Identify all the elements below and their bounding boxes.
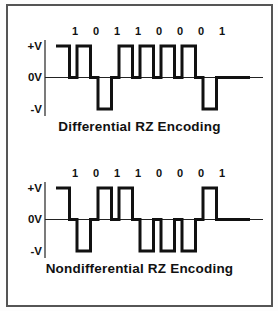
minus-v-label: -V [16,244,42,258]
page: 10110001 +V 0V -V Differential RZ Encodi… [0,0,278,311]
panel-title: Differential RZ Encoding [8,119,271,134]
panel-nondifferential-rz: 10110001 +V 0V -V Nondifferential RZ Enc… [8,148,271,288]
zero-v-label: 0V [16,70,42,84]
plus-v-label: +V [16,39,42,53]
plus-v-label: +V [16,181,42,195]
panel-title: Nondifferential RZ Encoding [8,261,271,276]
panel-differential-rz: 10110001 +V 0V -V Differential RZ Encodi… [8,6,271,146]
figure-frame: 10110001 +V 0V -V Differential RZ Encodi… [6,4,273,307]
zero-v-label: 0V [16,212,42,226]
minus-v-label: -V [16,102,42,116]
